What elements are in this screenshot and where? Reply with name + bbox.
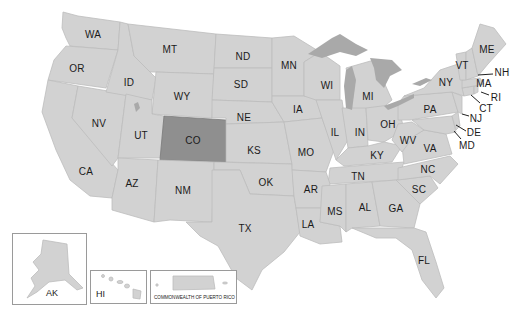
inset-label-pr: COMMONWEALTH OF PUERTO RICO — [154, 295, 235, 300]
state-wi[interactable] — [304, 52, 340, 100]
state-label-mi: MI — [362, 91, 374, 102]
callout-label-ri: RI — [491, 92, 501, 103]
lake-superior — [308, 34, 368, 58]
state-label-mo: MO — [298, 147, 315, 158]
inset-puerto-rico[interactable]: COMMONWEALTH OF PUERTO RICO — [150, 270, 237, 304]
state-label-il: IL — [331, 127, 340, 138]
state-label-fl: FL — [418, 255, 430, 266]
callout-label-de: DE — [467, 127, 481, 138]
state-label-ar: AR — [304, 184, 318, 195]
leader-nh — [478, 74, 493, 75]
state-label-tx: TX — [238, 223, 251, 234]
state-label-ia: IA — [293, 104, 303, 115]
inset-label-hi: HI — [96, 289, 105, 299]
inset-alaska[interactable]: AK — [12, 233, 87, 305]
state-label-nv: NV — [92, 118, 106, 129]
state-label-me: ME — [479, 44, 494, 55]
state-label-nd: ND — [236, 51, 251, 62]
inset-hawaii[interactable]: HI — [90, 270, 147, 304]
state-label-al: AL — [359, 202, 372, 213]
state-label-nm: NM — [175, 185, 191, 196]
state-label-ny: NY — [439, 77, 453, 88]
state-label-mt: MT — [163, 44, 178, 55]
state-label-ga: GA — [389, 203, 404, 214]
state-label-nc: NC — [421, 164, 436, 175]
state-label-id: ID — [124, 77, 134, 88]
state-label-ky: KY — [370, 150, 384, 161]
state-label-va: VA — [424, 143, 437, 154]
state-label-sc: SC — [412, 184, 426, 195]
state-label-in: IN — [355, 127, 365, 138]
state-label-mn: MN — [281, 60, 297, 71]
callout-label-ma: MA — [476, 78, 491, 89]
state-label-ok: OK — [259, 177, 274, 188]
state-ks[interactable] — [226, 122, 292, 164]
state-label-wi: WI — [321, 80, 334, 91]
state-label-ms: MS — [327, 206, 342, 217]
state-ky[interactable] — [336, 142, 402, 166]
state-az[interactable] — [112, 158, 158, 222]
state-label-ut: UT — [134, 130, 148, 141]
state-label-ks: KS — [247, 145, 261, 156]
callout-label-nj: NJ — [470, 113, 483, 124]
state-label-tn: TN — [351, 171, 365, 182]
state-label-az: AZ — [125, 178, 138, 189]
callout-label-md: MD — [459, 140, 475, 151]
inset-label-ak: AK — [46, 288, 58, 298]
state-label-co: CO — [185, 135, 200, 146]
leader-ri — [481, 92, 489, 95]
state-fl[interactable] — [352, 228, 444, 298]
state-label-oh: OH — [380, 119, 395, 130]
state-label-ne: NE — [237, 112, 251, 123]
state-label-wv: WV — [400, 135, 417, 146]
state-label-ca: CA — [79, 166, 93, 177]
leader-md — [454, 131, 461, 139]
state-label-sd: SD — [234, 79, 248, 90]
state-label-wa: WA — [85, 29, 101, 40]
leader-nj — [462, 114, 469, 116]
state-label-vt: VT — [455, 60, 468, 71]
state-label-wy: WY — [174, 91, 191, 102]
state-label-la: LA — [302, 219, 315, 230]
state-label-pa: PA — [424, 104, 437, 115]
callout-label-nh: NH — [495, 67, 510, 78]
state-label-or: OR — [69, 63, 84, 74]
